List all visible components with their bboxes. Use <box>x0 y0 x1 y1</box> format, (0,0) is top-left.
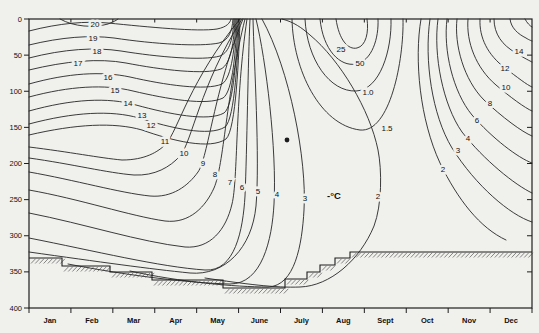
contour-line-2 <box>205 19 381 287</box>
month-label-may: May <box>210 316 225 325</box>
y-tick-label: 250 <box>9 195 22 204</box>
bottom-hatch-mark <box>478 253 483 258</box>
contour-label-1.0: 1.0 <box>362 88 374 97</box>
contour-line-14 <box>29 19 238 117</box>
month-label-aug: Aug <box>336 316 351 325</box>
y-tick-label: 0 <box>18 15 22 24</box>
month-label-mar: Mar <box>127 316 140 325</box>
contour-line-2r <box>418 19 506 240</box>
y-tick-label: 50 <box>14 51 22 60</box>
bottom-hatch-mark <box>175 281 180 286</box>
bottom-hatch-mark <box>271 289 276 294</box>
bottom-hatch-mark <box>35 259 40 264</box>
contour-line-50 <box>320 19 378 64</box>
month-label-june: June <box>251 316 269 325</box>
contour-line-13 <box>29 19 239 131</box>
bottom-hatch-mark <box>280 289 285 294</box>
month-label-jan: Jan <box>43 316 56 325</box>
bottom-hatch-mark <box>444 253 449 258</box>
contour-label-6: 6 <box>240 183 245 192</box>
contour-label-11: 11 <box>161 137 170 146</box>
contour-plot-figure: 050100150200250300350400JanFebMarAprMayJ… <box>0 0 539 333</box>
bottom-hatch-mark <box>167 281 172 286</box>
contour-label-3r: 3 <box>456 146 461 155</box>
bottom-hatch-mark <box>116 273 121 278</box>
contour-label-8: 8 <box>213 170 218 179</box>
contour-plot: 050100150200250300350400JanFebMarAprMayJ… <box>0 0 539 333</box>
bottom-hatch-mark <box>407 253 412 258</box>
bottom-hatch-mark <box>365 253 370 258</box>
bottom-hatch-mark <box>386 253 391 258</box>
bottom-hatch-mark <box>254 289 259 294</box>
contour-line-8r <box>456 19 532 136</box>
contour-label-2r: 2 <box>441 165 446 174</box>
month-label-nov: Nov <box>462 316 477 325</box>
contour-label-4: 4 <box>275 190 280 199</box>
contour-line-20 <box>29 19 231 31</box>
contour-label-50: 50 <box>356 59 365 68</box>
bottom-hatch-mark <box>313 273 318 278</box>
contour-label-19: 19 <box>89 34 98 43</box>
unit-label: -°C <box>327 190 341 201</box>
contour-label-8r: 8 <box>488 99 493 108</box>
bottom-hatch-mark <box>432 253 437 258</box>
bottom-hatch-mark <box>495 253 500 258</box>
contour-label-6r: 6 <box>475 116 480 125</box>
contour-label-1.5: 1.5 <box>381 124 393 133</box>
bottom-hatch-mark <box>295 280 300 285</box>
dot-marker <box>285 138 290 143</box>
month-label-july: July <box>294 316 310 325</box>
contour-label-17: 17 <box>74 59 83 68</box>
contour-line-15 <box>29 19 237 102</box>
bottom-hatch-mark <box>330 266 335 271</box>
bottom-hatch-mark <box>369 253 374 258</box>
contour-line-1.5 <box>292 19 403 130</box>
bottom-hatch-mark <box>326 266 331 271</box>
bottom-hatch-mark <box>158 281 163 286</box>
bottom-hatch-mark <box>225 289 230 294</box>
contour-label-14r: 14 <box>515 47 524 56</box>
bottom-hatch-mark <box>267 289 272 294</box>
contour-label-7: 7 <box>228 178 233 187</box>
bottom-hatch-mark <box>524 253 529 258</box>
contour-label-12: 12 <box>147 121 156 130</box>
bottom-hatch-mark <box>154 281 159 286</box>
bottom-hatch-mark <box>461 253 466 258</box>
bottom-hatch-mark <box>44 259 49 264</box>
bottom-hatch-mark <box>512 253 516 258</box>
bottom-hatch-mark <box>411 253 416 258</box>
contour-label-9: 9 <box>201 159 206 168</box>
bottom-hatch-mark <box>423 253 428 258</box>
bottom-hatch-mark <box>263 289 268 294</box>
bottom-hatch-mark <box>507 253 512 258</box>
bottom-hatch-mark <box>162 281 167 286</box>
bottom-hatch-mark <box>60 259 65 264</box>
bottom-hatch-mark <box>516 253 521 258</box>
bottom-hatch-mark <box>112 273 117 278</box>
month-label-dec: Dec <box>504 316 518 325</box>
bottom-hatch-mark <box>68 267 73 272</box>
bottom-hatch-mark <box>398 253 403 258</box>
bottom-hatch-mark <box>465 253 470 258</box>
month-label-sept: Sept <box>377 316 394 325</box>
bottom-hatch-mark <box>381 253 386 258</box>
bottom-hatch-mark <box>337 259 342 264</box>
bottom-hatch-mark <box>491 253 496 258</box>
bottom-hatch-mark <box>137 273 142 278</box>
bottom-hatch-mark <box>64 267 69 272</box>
bottom-hatch-mark <box>474 253 479 258</box>
bottom-hatch-mark <box>499 253 504 258</box>
bottom-hatch-mark <box>304 280 309 285</box>
bottom-hatch-mark <box>56 259 61 264</box>
bottom-hatch-mark <box>275 289 280 294</box>
bottom-hatch-mark <box>486 253 491 258</box>
month-label-oct: Oct <box>421 316 434 325</box>
bottom-hatch-mark <box>233 289 238 294</box>
contour-line-4r <box>437 19 532 193</box>
y-tick-label: 150 <box>9 123 22 132</box>
contour-label-12r: 12 <box>501 64 510 73</box>
bottom-hatch-mark <box>503 253 508 258</box>
bottom-hatch-mark <box>52 259 57 264</box>
contour-label-5: 5 <box>256 187 261 196</box>
bottom-hatch-mark <box>77 267 82 272</box>
